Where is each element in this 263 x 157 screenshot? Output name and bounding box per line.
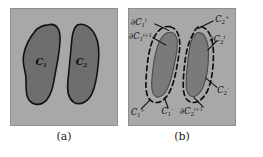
panel-a-graphic: C1 C2	[11, 9, 117, 125]
panel-b: ∂C1i ∂C1i+1 C2+ ∂C2i C2- C1+ C1- ∂C2i+1	[128, 8, 236, 126]
label-c2-plus: C2+	[215, 14, 229, 25]
label-c1-plus: C1+	[131, 107, 145, 118]
label-dc1-i-plus: ∂C1i+1	[129, 31, 152, 42]
label-dc2-i: ∂C2i	[209, 34, 225, 45]
label-c2-minus: C2-	[217, 85, 229, 96]
panel-a: C1 C2	[10, 8, 118, 126]
label-dc1-i: ∂C1i	[131, 17, 147, 28]
region-c1-shape-b	[152, 32, 178, 97]
label-c1-minus: C1-	[161, 106, 173, 117]
panel-b-graphic: ∂C1i ∂C1i+1 C2+ ∂C2i C2- C1+ C1- ∂C2i+1	[129, 9, 235, 125]
caption-b: (b)	[128, 130, 236, 143]
leader-c2-plus	[198, 21, 214, 29]
figure-container: C1 C2 (a) ∂C1i ∂C1i+1 C2+ ∂C2	[0, 0, 263, 157]
caption-a: (a)	[10, 130, 118, 143]
leader-c2-minus	[206, 78, 218, 88]
label-dc2-i-plus: ∂C2i+1	[180, 106, 203, 117]
